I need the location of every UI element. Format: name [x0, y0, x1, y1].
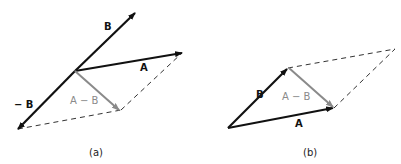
label-b: B: [256, 89, 264, 100]
label-a: A: [140, 62, 148, 73]
label-b: B: [104, 21, 112, 32]
label-neg-b: − B: [14, 99, 33, 110]
panel-b: B A − B A (b): [228, 49, 395, 158]
label-a-minus-b: A − B: [70, 95, 99, 106]
vector-subtraction-diagram: B A − B A − B (a) B A − B A (b): [0, 0, 401, 164]
caption-a: (a): [89, 147, 103, 158]
dashed-line-b-top: [288, 49, 395, 68]
label-a: A: [295, 118, 303, 129]
label-a-minus-b: A − B: [282, 91, 311, 102]
caption-b: (b): [303, 147, 317, 158]
panel-a: B A − B A − B (a): [14, 13, 182, 158]
